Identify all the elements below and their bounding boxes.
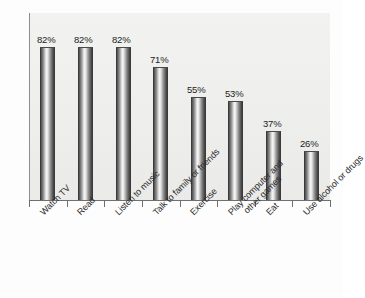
axis-tick [292, 201, 293, 207]
bar-value-label: 82% [37, 34, 55, 45]
bar-value-label: 82% [112, 34, 130, 45]
bar [78, 47, 93, 200]
axis-tick [29, 201, 30, 207]
axis-tick [180, 201, 181, 207]
axis-tick [67, 201, 68, 207]
bar [116, 47, 131, 200]
bar-value-label: 53% [225, 88, 243, 99]
bar [228, 101, 243, 200]
axis-tick [217, 201, 218, 207]
y-axis-line [29, 13, 30, 201]
axis-tick [330, 201, 331, 207]
category-label: Eat [264, 201, 280, 217]
bar [191, 97, 206, 200]
bar-value-label: 26% [300, 138, 318, 149]
bar-value-label: 71% [150, 54, 168, 65]
bar-value-label: 55% [187, 84, 205, 95]
bar-value-label: 37% [263, 118, 281, 129]
bar-value-label: 82% [74, 34, 92, 45]
bar [40, 47, 55, 200]
axis-tick [142, 201, 143, 207]
axis-tick [104, 201, 105, 207]
